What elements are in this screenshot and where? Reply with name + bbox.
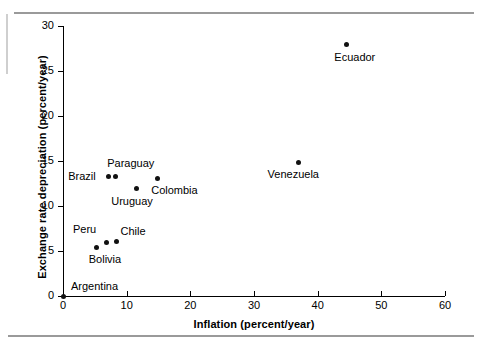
data-point (113, 174, 118, 179)
data-point-label: Brazil (68, 170, 96, 182)
data-point (104, 240, 109, 245)
x-tick (190, 291, 191, 296)
data-point-label: Ecuador (334, 51, 375, 63)
y-tick (58, 71, 63, 72)
data-point (61, 294, 66, 299)
data-point-label: Uruguay (111, 195, 153, 207)
x-axis-title: Inflation (percent/year) (63, 318, 445, 330)
scatter-plot: 051015202530 0102030405060 ArgentinaBoli… (0, 0, 487, 349)
data-point (134, 186, 139, 191)
data-point (114, 239, 119, 244)
y-tick (58, 251, 63, 252)
data-point-label: Chile (120, 225, 145, 237)
y-axis-title: Exchange rate depreciation (percent/year… (36, 27, 48, 307)
y-tick (58, 206, 63, 207)
y-axis-line (63, 26, 64, 297)
data-point-label: Paraguay (107, 157, 154, 169)
data-point (94, 245, 99, 250)
x-tick-label: 10 (112, 300, 142, 311)
x-axis-line (63, 296, 445, 297)
data-point (106, 174, 111, 179)
x-tick-label: 0 (48, 300, 78, 311)
y-tick (58, 161, 63, 162)
x-tick (381, 291, 382, 296)
x-tick-label: 50 (366, 300, 396, 311)
data-point-label: Peru (73, 223, 96, 235)
x-tick-label: 60 (430, 300, 460, 311)
data-point-label: Bolivia (89, 253, 121, 265)
data-point (344, 42, 349, 47)
x-tick (127, 291, 128, 296)
data-point-label: Argentina (71, 280, 118, 292)
data-point (296, 160, 301, 165)
figure-root: 051015202530 0102030405060 ArgentinaBoli… (0, 0, 487, 349)
x-tick (445, 291, 446, 296)
y-tick (58, 116, 63, 117)
x-tick (254, 291, 255, 296)
data-point-label: Venezuela (268, 168, 319, 180)
x-tick-label: 20 (175, 300, 205, 311)
y-tick (58, 26, 63, 27)
x-tick-label: 40 (303, 300, 333, 311)
data-point-label: Colombia (151, 184, 197, 196)
data-point (155, 176, 160, 181)
x-tick-label: 30 (239, 300, 269, 311)
x-tick (318, 291, 319, 296)
